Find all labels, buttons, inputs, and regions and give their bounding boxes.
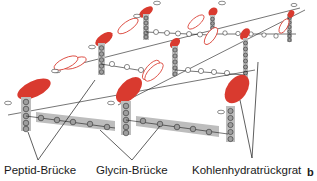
peptide-column-front-1 <box>21 97 31 132</box>
label-peptide-bridge: Peptid-Brücke <box>4 165 76 177</box>
label-glycine-bridge: Glycin-Brücke <box>96 165 168 177</box>
glycine-bridge-back-1 <box>146 30 210 38</box>
peptide-column-middle-1 <box>172 46 178 76</box>
peptide-column-front-3 <box>226 106 235 142</box>
peptide-column-back-1 <box>98 43 105 75</box>
label-carbohydrate-backbone: Kohlenhydratrückgrat <box>192 165 301 177</box>
peptidoglycan-diagram <box>0 0 317 181</box>
glycine-bridge-middle-1 <box>175 67 245 75</box>
peptide-column-front-2 <box>121 101 131 136</box>
peptide-column-back-2 <box>143 14 149 40</box>
glycine-bridge-front-2 <box>126 116 228 137</box>
panel-letter: b <box>307 167 314 178</box>
